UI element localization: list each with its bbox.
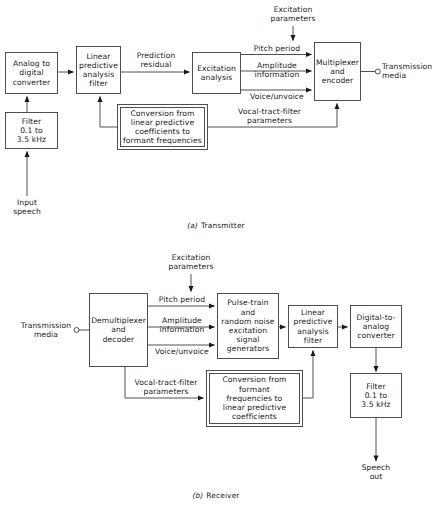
- terminal-rx-input: [74, 328, 79, 333]
- box-pulse-train: [218, 294, 279, 359]
- box-tx-lpc-filter: [77, 47, 121, 94]
- box-rx-filter: [351, 374, 402, 418]
- box-multiplexer: [315, 43, 361, 101]
- arrow-rx-conversion-to-lpc: [303, 351, 314, 399]
- caption-transmitter-letter: (a): [187, 221, 198, 230]
- box-tx-conversion-inner: [121, 108, 205, 147]
- caption-transmitter-text: Transmitter: [201, 221, 245, 230]
- box-tx-filter: [6, 113, 58, 149]
- label-tx-amplitude-information: Amplitude information: [243, 61, 311, 80]
- box-analog-to-digital: [6, 53, 58, 94]
- label-tx-pitch-period: Pitch period: [243, 44, 311, 53]
- box-excitation-analysis: [193, 53, 241, 94]
- label-rx-amplitude-information: Amplitude information: [150, 316, 214, 335]
- caption-receiver-text: Receiver: [206, 491, 239, 500]
- label-speech-out: Speech out: [351, 463, 401, 482]
- label-rx-excitation-parameters: Excitation parameters: [151, 253, 231, 272]
- caption-receiver: (b)Receiver: [0, 491, 432, 500]
- label-prediction-residual: Prediction residual: [123, 51, 189, 70]
- box-digital-to-analog: [351, 306, 402, 348]
- label-tx-transmission-media: Transmission media: [382, 62, 432, 81]
- label-tx-voice-unvoice: Voice/unvoice: [243, 92, 311, 101]
- label-tx-excitation-parameters: Excitation parameters: [253, 5, 333, 24]
- caption-transmitter: (a)Transmitter: [0, 221, 432, 230]
- label-rx-vocal-tract-filter-parameters: Vocal-tract-filter parameters: [127, 378, 205, 397]
- label-rx-transmission-media: Transmission media: [19, 321, 73, 340]
- label-tx-vocal-tract-filter-parameters: Vocal-tract-filter parameters: [222, 107, 317, 126]
- box-rx-conversion-inner: [210, 374, 300, 424]
- label-rx-pitch-period: Pitch period: [150, 295, 214, 304]
- arrow-tx-conversion-feedback: [100, 97, 118, 128]
- box-rx-lpc-filter: [289, 306, 338, 348]
- caption-receiver-letter: (b): [192, 491, 203, 500]
- figure-canvas: Analog to digital converter Filter 0.1 t…: [0, 0, 432, 506]
- box-demultiplexer: [90, 294, 148, 367]
- label-input-speech: Input speech: [2, 198, 52, 217]
- terminal-tx-output: [375, 69, 380, 74]
- label-rx-voice-unvoice: Voice/unvoice: [150, 347, 214, 356]
